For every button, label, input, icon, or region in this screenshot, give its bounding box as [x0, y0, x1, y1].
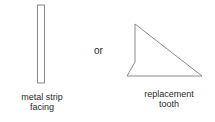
metal-strip-label-line2: facing — [12, 102, 72, 112]
replacement-tooth-label-line2: tooth — [136, 99, 202, 109]
replacement-tooth-shape — [127, 24, 202, 76]
metal-strip-label-line1: metal strip — [12, 92, 72, 102]
or-connector: or — [94, 45, 103, 56]
metal-strip-shape — [38, 5, 45, 83]
metal-strip-label: metal strip facing — [12, 92, 72, 112]
replacement-tooth-label-line1: replacement — [136, 89, 202, 99]
replacement-tooth-label: replacement tooth — [136, 89, 202, 109]
